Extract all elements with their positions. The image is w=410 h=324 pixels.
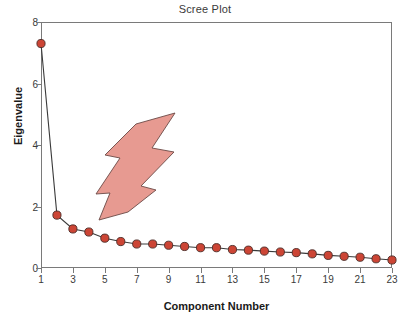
data-point [212, 244, 220, 252]
x-axis-label: Component Number [41, 300, 392, 312]
data-point [372, 255, 380, 263]
eigenvalue-markers [37, 39, 396, 264]
data-point [292, 249, 300, 257]
data-point [101, 234, 109, 242]
data-point [133, 240, 141, 248]
data-point [37, 39, 45, 47]
scree-plot-figure: Scree Plot Eigenvalue 02468 135791113151… [0, 0, 410, 324]
data-point [340, 252, 348, 260]
eigenvalue-line [41, 44, 392, 260]
data-point [196, 244, 204, 252]
data-point [308, 250, 316, 258]
data-point [324, 251, 332, 259]
data-point [276, 248, 284, 256]
data-point [260, 247, 268, 255]
data-point [85, 228, 93, 236]
data-point [69, 225, 77, 233]
data-point [388, 256, 396, 264]
data-point [228, 245, 236, 253]
data-series-layer [0, 0, 410, 324]
data-point [244, 246, 252, 254]
data-point [53, 211, 61, 219]
data-point [180, 242, 188, 250]
data-point [165, 241, 173, 249]
data-point [149, 240, 157, 248]
data-point [117, 237, 125, 245]
data-point [356, 253, 364, 261]
